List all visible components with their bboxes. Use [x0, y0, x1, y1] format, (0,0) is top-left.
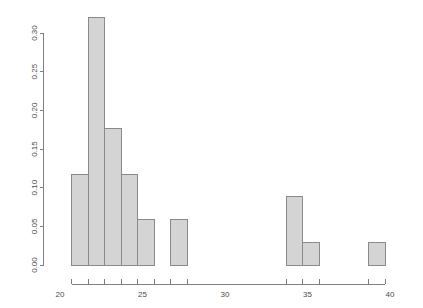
- histogram-plot: 0.000.050.100.150.200.250.30 2025303540: [0, 0, 423, 308]
- histogram-bar: [72, 175, 89, 265]
- plot-background: [0, 0, 423, 308]
- x-axis-tick-label: 20: [56, 290, 65, 299]
- histogram-bar: [369, 243, 386, 265]
- histogram-canvas: 0.000.050.100.150.200.250.30 2025303540: [0, 0, 423, 308]
- y-axis-tick-label: 0.20: [30, 102, 39, 118]
- y-axis-tick-label: 0.15: [30, 141, 39, 157]
- histogram-bar: [286, 197, 303, 265]
- histogram-bar: [303, 243, 320, 265]
- y-axis-tick-label: 0.30: [30, 25, 39, 41]
- histogram-bar: [138, 219, 155, 265]
- y-axis-tick-label: 0.00: [30, 257, 39, 273]
- y-axis-tick-label: 0.05: [30, 218, 39, 234]
- y-axis-tick-label: 0.25: [30, 63, 39, 79]
- histogram-bar: [171, 219, 188, 265]
- y-axis-tick-label: 0.10: [30, 179, 39, 195]
- histogram-bar: [121, 175, 138, 265]
- x-axis-tick-label: 30: [221, 290, 230, 299]
- x-axis-tick-label: 35: [303, 290, 312, 299]
- x-axis-tick-label: 40: [386, 290, 395, 299]
- histogram-bar: [105, 128, 122, 265]
- histogram-bar: [88, 18, 105, 265]
- x-axis-tick-label: 25: [138, 290, 147, 299]
